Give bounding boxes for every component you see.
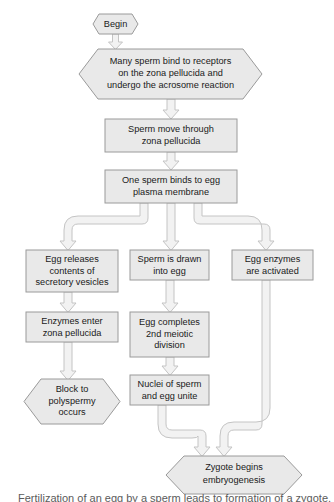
elbow-nuclei-to-zygote [158,405,210,457]
sperm-is-drawn-label-line-1: Sperm is drawn [138,254,202,264]
flowchart-canvas: Begin Many sperm bind to receptors on th… [0,0,334,502]
elbow-one-sperm-to-egg-releases [60,203,148,251]
block-to-polyspermy-label-line-2: polyspermy [49,396,96,406]
egg-completes-meiotic-label-line-1: Egg completes [139,317,200,327]
many-sperm-bind-label-line-1: Many sperm bind to receptors [110,56,232,66]
egg-enzymes-activated-label-line-1: Egg enzymes [245,254,301,264]
arrow-egg-releases-to-enzymes-enter [60,292,76,313]
one-sperm-binds-label-line-2: plasma membrane [133,187,209,197]
flowchart-diagram: Begin Many sperm bind to receptors on th… [0,0,334,502]
node-many-sperm-bind: Many sperm bind to receptors on the zona… [79,49,262,99]
nuclei-unite-label-line-1: Nuclei of sperm [138,379,202,389]
arrow-one-sperm-to-sperm-drawn [163,203,179,251]
node-begin: Begin [93,14,138,34]
elbow-egg-enzymes-to-zygote [216,280,270,457]
node-zygote-begins: Zygote begins embryogenesis [166,456,302,494]
nuclei-unite-label-line-2: and egg unite [142,391,198,401]
zygote-begins-label-line-2: embryogenesis [203,475,266,485]
sperm-is-drawn-label-line-2: into egg [153,266,186,276]
node-layer: Begin Many sperm bind to receptors on th… [24,14,313,494]
sperm-move-through-label-line-2: zona pellucida [142,136,202,146]
begin-label-line-1: Begin [104,19,128,29]
node-sperm-move-through: Sperm move through zona pellucida [105,119,237,152]
one-sperm-binds-label-line-1: One sperm binds to egg [122,175,220,185]
node-egg-enzymes-activated: Egg enzymes are activated [232,250,313,280]
many-sperm-bind-label-line-3: undergo the acrosome reaction [107,80,234,90]
block-to-polyspermy-label-line-3: occurs [58,407,85,417]
sperm-move-through-label-line-1: Sperm move through [128,124,214,134]
egg-releases-contents-label-line-3: secretory vesicles [35,277,108,287]
egg-releases-contents-label-line-2: contents of [50,266,95,276]
egg-enzymes-activated-label-line-2: are activated [246,266,299,276]
arrow-egg-completes-to-nuclei [162,357,178,376]
egg-completes-meiotic-label-line-2: 2nd meiotic [146,329,193,339]
block-to-polyspermy-label-line-1: Block to [56,384,89,394]
node-egg-releases-contents: Egg releases contents of secretory vesic… [26,250,118,292]
figure-caption: Fertilization of an egg by a sperm leads… [0,492,334,502]
arrow-many-sperm-to-sperm-move [163,99,179,119]
enzymes-enter-zona-label-line-1: Enzymes enter [41,316,102,326]
arrow-sperm-drawn-to-egg-completes [162,280,178,313]
zygote-begins-label-line-1: Zygote begins [205,462,263,472]
arrow-begin-to-many-sperm [109,34,123,50]
node-nuclei-unite: Nuclei of sperm and egg unite [130,375,209,405]
enzymes-enter-zona-label-line-2: zona pellucida [43,328,103,338]
egg-releases-contents-label-line-1: Egg releases [45,254,99,264]
many-sperm-bind-label-line-2: on the zona pellucida and [118,68,223,78]
arrow-enzymes-enter-to-block [60,342,76,381]
elbow-one-sperm-to-egg-enzymes [194,203,274,251]
node-enzymes-enter-zona: Enzymes enter zona pellucida [26,312,118,342]
node-egg-completes-meiotic: Egg completes 2nd meiotic division [130,312,209,357]
egg-completes-meiotic-label-line-3: division [154,340,185,350]
node-sperm-is-drawn: Sperm is drawn into egg [130,250,209,280]
node-one-sperm-binds: One sperm binds to egg plasma membrane [105,170,237,203]
arrow-sperm-move-to-one-sperm [163,152,179,170]
node-block-to-polyspermy: Block to polyspermy occurs [24,379,120,424]
